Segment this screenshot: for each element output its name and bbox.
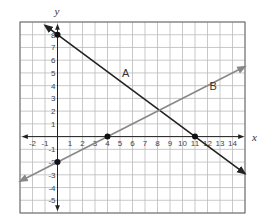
y-tick-label: -5 — [48, 196, 56, 205]
x-tick-label: 10 — [178, 139, 187, 148]
line-label-a: A — [122, 67, 130, 79]
x-tick-label: 4 — [105, 139, 110, 148]
y-tick-label: 2 — [51, 107, 56, 116]
x-tick-label: 14 — [228, 139, 237, 148]
y-tick-label: 6 — [51, 56, 56, 65]
point-marker — [192, 134, 198, 140]
x-tick-label: 13 — [216, 139, 225, 148]
point-marker — [105, 134, 111, 140]
x-tick-label: 7 — [143, 139, 148, 148]
y-tick-label: -1 — [48, 145, 56, 154]
line-label-b: B — [210, 80, 217, 92]
y-tick-label: -3 — [48, 171, 56, 180]
y-tick-label: 7 — [51, 43, 56, 52]
coordinate-plane-chart: -2-11234567891011121314-5-4-3-2-11234567… — [0, 0, 269, 223]
y-tick-label: 1 — [51, 120, 56, 129]
x-tick-label: 2 — [80, 139, 85, 148]
y-tick-label: 5 — [51, 69, 56, 78]
y-tick-label: 3 — [51, 94, 56, 103]
axes — [23, 25, 243, 210]
x-tick-label: 5 — [118, 139, 123, 148]
y-tick-label: 4 — [51, 82, 56, 91]
x-tick-label: 9 — [168, 139, 173, 148]
y-axis-label: y — [54, 5, 60, 17]
x-tick-label: -2 — [29, 139, 37, 148]
tick-labels: -2-11234567891011121314-5-4-3-2-11234567… — [29, 31, 238, 206]
y-tick-label: -4 — [48, 184, 56, 193]
x-tick-label: 8 — [155, 139, 160, 148]
x-axis-label: x — [251, 131, 257, 143]
point-marker — [55, 159, 61, 165]
point-marker — [55, 32, 61, 38]
x-tick-label: 1 — [68, 139, 73, 148]
x-tick-label: 6 — [130, 139, 135, 148]
